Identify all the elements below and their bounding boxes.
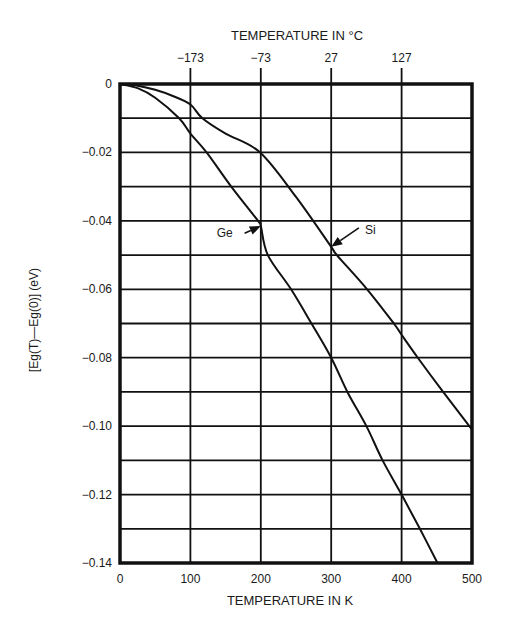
y-tick-labels: 0−0.02−0.04−0.06−0.08−0.10−0.12−0.14 xyxy=(82,77,113,570)
annotation-label-si: Si xyxy=(365,223,376,237)
top-tick-label: −173 xyxy=(177,51,204,65)
y-tick-label: −0.14 xyxy=(82,556,113,570)
y-tick-label: −0.10 xyxy=(82,419,113,433)
y-tick-label: 0 xyxy=(105,77,112,91)
x-tick-label: 0 xyxy=(117,572,124,586)
top-tick-label: 127 xyxy=(392,51,412,65)
x-tick-labels: 0100200300400500 xyxy=(117,572,483,586)
x-axis-title: TEMPERATURE IN K xyxy=(227,593,353,608)
series-si-line xyxy=(120,84,472,430)
x-tick-label: 400 xyxy=(392,572,412,586)
top-axis-ticks: −173−7327127 xyxy=(177,51,412,84)
annotation-arrow-shaft xyxy=(340,228,359,241)
y-tick-label: −0.08 xyxy=(82,351,113,365)
annotation-arrow-shaft xyxy=(245,230,251,233)
annotations: GeSi xyxy=(217,223,376,247)
x-tick-label: 100 xyxy=(180,572,200,586)
y-tick-label: −0.04 xyxy=(82,214,113,228)
annotation-arrow-head-icon xyxy=(331,237,343,247)
y-tick-label: −0.06 xyxy=(82,282,113,296)
x-tick-label: 200 xyxy=(251,572,271,586)
annotation-arrow-head-icon xyxy=(249,226,261,235)
top-axis-title: TEMPERATURE IN °C xyxy=(231,28,363,43)
chart: TEMPERATURE IN °C −173−7327127 0−0.02−0.… xyxy=(0,0,507,638)
y-tick-label: −0.12 xyxy=(82,488,113,502)
annotation-label-ge: Ge xyxy=(217,226,233,240)
top-tick-label: −73 xyxy=(251,51,272,65)
y-axis-title: [Eg(T)—Eg(0)] (eV) xyxy=(27,268,41,372)
y-tick-label: −0.02 xyxy=(82,145,113,159)
x-tick-label: 500 xyxy=(462,572,482,586)
grid xyxy=(120,84,472,563)
top-tick-label: 27 xyxy=(325,51,339,65)
x-tick-label: 300 xyxy=(321,572,341,586)
